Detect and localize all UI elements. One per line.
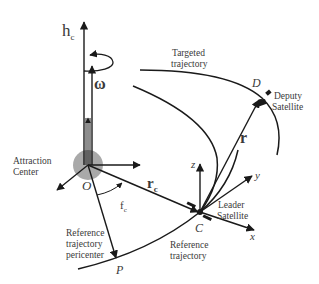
inner-arc-curve (133, 86, 217, 212)
r-label: r (240, 130, 247, 147)
attraction-center-label-line2: Center (13, 168, 38, 178)
rotation-arrow (84, 54, 113, 71)
omega-label: ω (94, 76, 106, 93)
reference-trajectory-label-line1: Reference (170, 241, 209, 251)
z-axis-label: z (191, 159, 195, 171)
h-c-label: hc (62, 22, 75, 43)
leader-satellite-label-line1: Leader (218, 201, 244, 211)
r-c-label: rc (147, 176, 158, 194)
leader-satellite-label-line2: Satellite (217, 212, 248, 222)
f-c-label: fc (120, 200, 127, 215)
p-label: P (116, 264, 123, 277)
reference-trajectory-label-line2: trajectory (170, 252, 206, 262)
d-label: D (252, 77, 261, 90)
y-axis-label: y (255, 170, 260, 182)
origin-label: O (82, 179, 91, 193)
f-c-angle-arc (97, 183, 122, 195)
r-c-vector (88, 165, 198, 212)
orbit-diagram (0, 0, 319, 284)
pericenter-label-line3: pericenter (66, 251, 104, 261)
deputy-satellite-label-line2: Satellite (272, 103, 303, 113)
targeted-trajectory-label-line2: trajectory (171, 60, 207, 70)
c-label: C (195, 222, 203, 235)
deputy-satellite-label-line1: Deputy (274, 92, 302, 102)
pericenter-label-line1: Reference (66, 229, 105, 239)
targeted-trajectory-label-line1: Targeted (172, 49, 205, 59)
r-vector (200, 100, 259, 212)
x-axis-label: x (250, 231, 255, 243)
pericenter-label-line2: trajectory (66, 240, 102, 250)
attraction-center-label-line1: Attraction (13, 157, 52, 167)
